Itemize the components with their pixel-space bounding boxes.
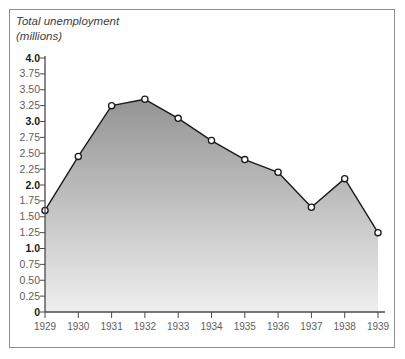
data-point-marker xyxy=(275,169,281,175)
data-point-marker xyxy=(308,204,314,210)
data-point-marker xyxy=(142,96,148,102)
area-chart-plot xyxy=(0,0,405,359)
data-point-marker xyxy=(175,115,181,121)
data-point-marker xyxy=(75,153,81,159)
data-point-marker xyxy=(208,137,214,143)
chart-screenshot: Total unemployment (millions) 00.250.500… xyxy=(0,0,405,359)
y-axis-ticks xyxy=(40,58,45,312)
data-point-marker xyxy=(342,176,348,182)
data-point-marker xyxy=(242,157,248,163)
data-point-marker xyxy=(375,230,381,236)
data-point-marker xyxy=(109,103,115,109)
x-axis-ticks xyxy=(45,312,378,318)
